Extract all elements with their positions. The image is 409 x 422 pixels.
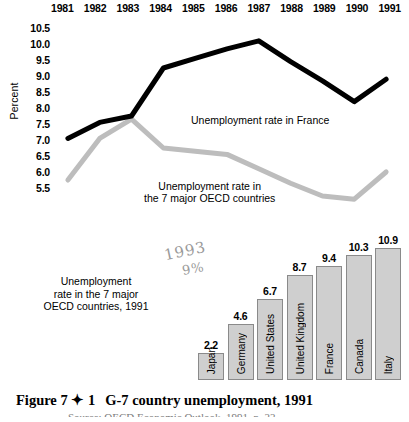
x-tick-label: 1988 <box>275 2 308 18</box>
x-tick-label: 1983 <box>111 2 144 18</box>
bar-value-label: 4.6 <box>228 310 254 322</box>
y-tick-label: 9.5 <box>14 55 50 65</box>
bar-chart-caption: Unemployment rate in the 7 major OECD co… <box>16 275 176 313</box>
figure-title: G-7 country unemployment, 1991 <box>105 392 313 408</box>
y-tick-label: 10.0 <box>14 39 50 49</box>
figure-caption: Figure 7 ✦ 1G-7 country unemployment, 19… <box>16 392 406 417</box>
bar-group: 10.3Canada <box>346 239 372 380</box>
bar-value-label: 10.9 <box>375 234 401 246</box>
bar-category-label: France <box>317 343 343 374</box>
bar-rect: Canada <box>346 255 372 380</box>
bar-category-label: Germany <box>229 333 255 374</box>
bar-rect: Japan <box>198 353 224 380</box>
series-annotation-france: Unemployment rate in France <box>191 114 329 126</box>
bar-group: 8.7United Kingdom <box>287 259 313 380</box>
bar-category-label: Canada <box>347 339 373 374</box>
bar-value-label: 9.4 <box>316 252 342 264</box>
x-tick-label: 1981 <box>46 2 79 18</box>
bar-rect: Germany <box>228 324 254 380</box>
bar-value-label: 8.7 <box>287 261 313 273</box>
line-chart-panel: 1981 1982 1983 1984 1985 1986 1987 1988 … <box>0 0 409 212</box>
y-tick-label: 5.5 <box>14 183 50 193</box>
x-tick-label: 1987 <box>242 2 275 18</box>
x-tick-label: 1984 <box>144 2 177 18</box>
bar-group: 4.6Germany <box>228 308 254 380</box>
y-tick-label: 8.5 <box>14 87 50 97</box>
bar-category-label: Japan <box>199 347 225 374</box>
x-tick-label: 1982 <box>79 2 112 18</box>
bar-chart-caption-line2: rate in the 7 major <box>16 288 176 301</box>
bar-group: 9.4France <box>316 250 342 380</box>
bar-category-label: Italy <box>376 356 402 374</box>
figure-number: Figure 7 ✦ 1 <box>16 392 95 408</box>
y-tick-label: 10.5 <box>14 23 50 33</box>
series-annotation-oecd: Unemployment rate in the 7 major OECD co… <box>144 180 275 204</box>
figure-caption-line: Figure 7 ✦ 1G-7 country unemployment, 19… <box>16 392 406 409</box>
y-tick-label: 6.5 <box>14 151 50 161</box>
bar-chart-panel: Unemployment rate in the 7 major OECD co… <box>0 212 409 387</box>
x-tick-label: 1991 <box>373 2 406 18</box>
bar-chart-caption-line1: Unemployment <box>16 275 176 288</box>
bar-rect: United Kingdom <box>287 275 313 380</box>
x-tick-label: 1989 <box>308 2 341 18</box>
y-tick-label: 7.0 <box>14 135 50 145</box>
bar-value-label: 10.3 <box>346 241 372 253</box>
x-tick-label: 1990 <box>341 2 374 18</box>
series-annotation-oecd-line2: the 7 major OECD countries <box>144 192 275 204</box>
y-tick-label: 6.0 <box>14 167 50 177</box>
y-tick-label: 7.5 <box>14 119 50 129</box>
bar-rect: United States <box>257 299 283 380</box>
line-chart-plot-area: Unemployment rate in France Unemployment… <box>52 28 402 204</box>
x-tick-label: 1986 <box>210 2 243 18</box>
y-tick-label: 9.0 <box>14 71 50 81</box>
bar-rect: France <box>316 266 342 380</box>
bar-rect: Italy <box>375 248 401 380</box>
bar-group: 2.2Japan <box>198 337 224 380</box>
bar-group: 10.9Italy <box>375 232 401 380</box>
bar-value-label: 6.7 <box>257 285 283 297</box>
bar-chart-bars: 2.2Japan4.6Germany6.7United States8.7Uni… <box>196 212 404 384</box>
bar-category-label: United Kingdom <box>288 303 314 374</box>
line-chart-y-axis: 10.5 10.0 9.5 9.0 8.5 8.0 7.5 7.0 6.5 6.… <box>14 28 50 200</box>
bar-group: 6.7United States <box>257 283 283 380</box>
bar-category-label: United States <box>258 314 284 374</box>
bar-chart-caption-line3: OECD countries, 1991 <box>16 300 176 313</box>
figure-source: Source: OECD Economic Outlook, 1991, p. … <box>68 411 406 417</box>
y-tick-label: 8.0 <box>14 103 50 113</box>
series-annotation-oecd-line1: Unemployment rate in <box>144 180 275 192</box>
line-chart-x-axis: 1981 1982 1983 1984 1985 1986 1987 1988 … <box>46 2 406 18</box>
x-tick-label: 1985 <box>177 2 210 18</box>
